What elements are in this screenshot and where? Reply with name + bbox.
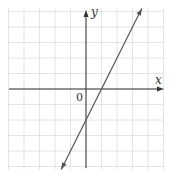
line-arrow-bottom-icon (61, 162, 66, 169)
x-axis-label: x (155, 73, 162, 87)
origin-label: 0 (76, 91, 83, 104)
y-axis-label: y (91, 5, 98, 19)
y-axis-arrow-icon (84, 10, 89, 17)
line-arrow-top-icon (136, 8, 141, 15)
x-axis-arrow-icon (157, 87, 164, 92)
coordinate-plane (0, 0, 171, 178)
